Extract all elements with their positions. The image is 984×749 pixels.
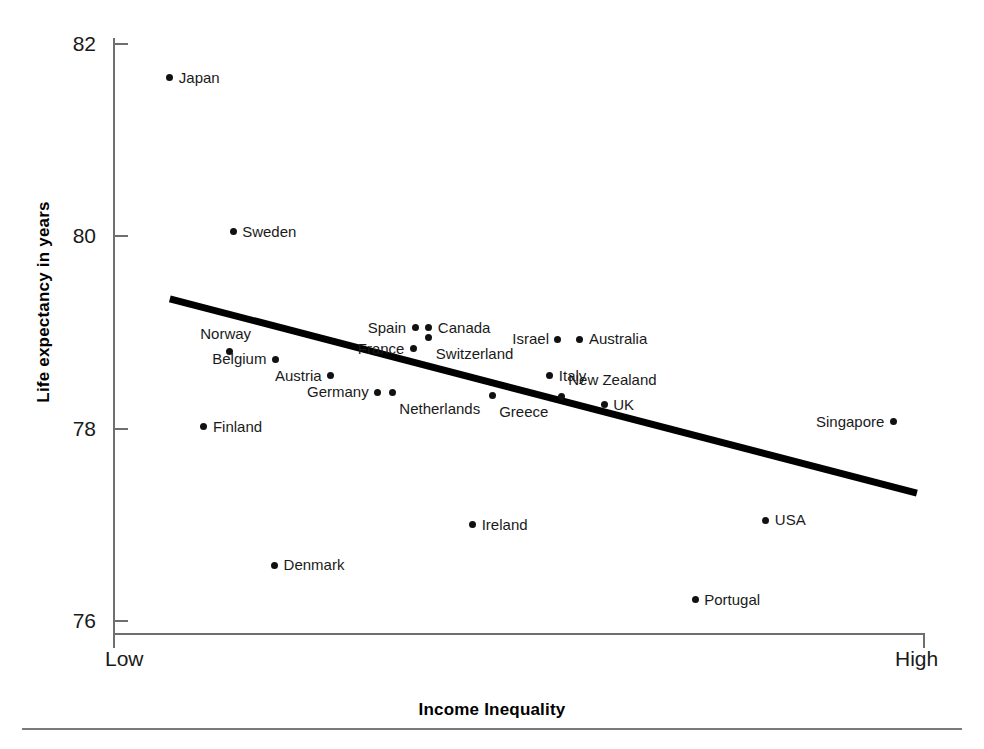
data-point-label: Greece <box>499 404 548 419</box>
data-point-label: USA <box>775 512 806 527</box>
data-point-label: Netherlands <box>399 401 480 416</box>
data-point-label: Israel <box>512 331 549 346</box>
data-point-label: Denmark <box>284 557 345 572</box>
footer-rule <box>22 728 962 730</box>
data-point <box>410 345 417 352</box>
data-point-label: Australia <box>589 331 647 346</box>
data-point <box>271 562 278 569</box>
data-point <box>546 372 553 379</box>
data-point-label: Spain <box>368 320 406 335</box>
data-point <box>890 418 897 425</box>
data-point-label: Finland <box>213 419 262 434</box>
data-point-label: Singapore <box>816 414 884 429</box>
plot-area: JapanSwedenSpainCanadaIsraelAustraliaNor… <box>0 0 984 749</box>
data-point <box>272 356 279 363</box>
data-point <box>489 392 496 399</box>
data-point <box>554 336 561 343</box>
data-point <box>576 336 583 343</box>
data-point-label: Austria <box>275 368 322 383</box>
data-point <box>425 334 432 341</box>
data-point-label: Canada <box>438 320 491 335</box>
data-point-label: Switzerland <box>436 346 514 361</box>
data-point <box>762 517 769 524</box>
data-point <box>469 521 476 528</box>
data-point <box>389 389 396 396</box>
data-point-label: Sweden <box>242 224 296 239</box>
data-point-label: Germany <box>307 384 369 399</box>
data-point-label: Ireland <box>482 517 528 532</box>
data-point <box>692 596 699 603</box>
data-point-label: Portugal <box>704 592 760 607</box>
data-point <box>412 324 419 331</box>
data-point-label: Japan <box>179 70 220 85</box>
data-point <box>327 372 334 379</box>
scatter-chart: 82807876 Low High Income Inequality Life… <box>0 0 984 749</box>
data-point-label: New Zealand <box>568 372 656 387</box>
data-point <box>425 324 432 331</box>
data-point-label: UK <box>613 397 634 412</box>
data-point <box>200 423 207 430</box>
data-point <box>374 389 381 396</box>
data-point-label: France <box>358 341 405 356</box>
data-point <box>601 401 608 408</box>
data-point-label: Belgium <box>212 351 266 366</box>
data-point <box>558 393 565 400</box>
data-point-label: Norway <box>200 326 251 341</box>
data-point <box>166 74 173 81</box>
data-point <box>230 228 237 235</box>
